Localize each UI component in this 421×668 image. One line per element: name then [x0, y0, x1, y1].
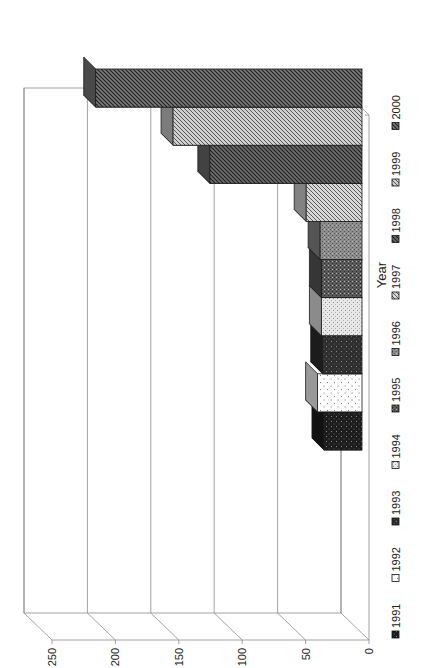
- legend-label: 1994: [390, 434, 402, 458]
- legend-swatch: [392, 518, 399, 525]
- side-wall-gridline: [278, 613, 306, 640]
- legend-label: 1991: [390, 604, 402, 628]
- side-wall-gridline: [24, 613, 52, 640]
- legend-swatch: [392, 123, 399, 130]
- legend-item-1999: 1999: [390, 152, 402, 186]
- legend-item-2000: 2000: [390, 95, 402, 129]
- legend-item-1993: 1993: [390, 491, 402, 525]
- legend-swatch: [392, 349, 399, 356]
- legend-swatch: [392, 462, 399, 469]
- bars: [84, 57, 362, 450]
- legend-item-1994: 1994: [390, 434, 402, 468]
- legend-label: 1993: [390, 491, 402, 515]
- side-wall-gridline: [214, 613, 242, 640]
- legend-label: 1992: [390, 547, 402, 571]
- bar-2000: [84, 57, 362, 107]
- legend-item-1996: 1996: [390, 321, 402, 355]
- legend-item-1992: 1992: [390, 547, 402, 581]
- legend-label: 1998: [390, 208, 402, 232]
- y-tick-label: 100: [236, 648, 248, 666]
- y-tick-label: 0: [363, 648, 375, 654]
- bar-chart-3d: 050100150200250 Year 1991199219931994199…: [0, 0, 421, 668]
- legend-label: 2000: [390, 95, 402, 119]
- category-axis: Year: [374, 261, 389, 288]
- legend-swatch: [392, 236, 399, 243]
- legend: 1991199219931994199519961997199819992000: [390, 95, 402, 638]
- legend-label: 1999: [390, 152, 402, 176]
- legend-label: 1995: [390, 378, 402, 402]
- legend-swatch: [392, 292, 399, 299]
- y-tick-label: 200: [109, 648, 121, 666]
- legend-item-1998: 1998: [390, 208, 402, 242]
- y-tick-label: 250: [46, 648, 58, 666]
- legend-swatch: [392, 631, 399, 638]
- side-wall-gridline: [341, 613, 369, 640]
- legend-swatch: [392, 179, 399, 186]
- legend-swatch: [392, 405, 399, 412]
- y-tick-label: 50: [300, 648, 312, 660]
- rotated-chart-frame: 050100150200250 Year 1991199219931994199…: [0, 0, 421, 668]
- x-axis-title: Year: [374, 261, 389, 288]
- side-wall-gridline: [151, 613, 179, 640]
- legend-label: 1996: [390, 321, 402, 345]
- legend-item-1991: 1991: [390, 604, 402, 638]
- legend-item-1995: 1995: [390, 378, 402, 412]
- y-tick-label: 150: [173, 648, 185, 666]
- legend-label: 1997: [390, 265, 402, 289]
- legend-swatch: [392, 575, 399, 582]
- side-wall-gridline: [87, 613, 115, 640]
- legend-item-1997: 1997: [390, 265, 402, 299]
